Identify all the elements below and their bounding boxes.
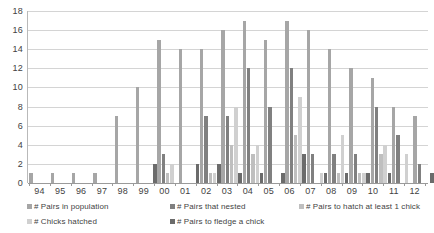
- year-group: [328, 11, 349, 183]
- bar: [251, 154, 254, 183]
- legend-swatch-icon: [27, 219, 32, 224]
- x-axis-tick-label: 02: [196, 183, 217, 199]
- bar: [430, 173, 433, 183]
- bar: [93, 173, 96, 183]
- legend-item[interactable]: # Chicks hatched: [27, 214, 97, 229]
- bar: [29, 173, 32, 183]
- legend-item[interactable]: # Pairs in population: [27, 199, 109, 214]
- x-axis-tickmark: [92, 183, 93, 186]
- legend-swatch-icon: [299, 204, 304, 209]
- bar: [362, 173, 365, 183]
- bar: [204, 116, 207, 183]
- year-group: [242, 11, 263, 183]
- x-axis-tick-label: 11: [383, 183, 404, 199]
- legend-label: # Pairs that nested: [177, 203, 246, 211]
- x-axis-tick-label: 04: [237, 183, 258, 199]
- x-axis-tickmark: [237, 183, 238, 186]
- y-axis-tick-label: 6: [18, 121, 23, 130]
- x-axis-tick-label: 96: [71, 183, 92, 199]
- x-axis-tick-label: 05: [258, 183, 279, 199]
- x-axis-tickmark: [175, 183, 176, 186]
- y-axis: 181614121086420: [0, 0, 26, 195]
- bar: [375, 107, 378, 183]
- bar: [221, 30, 224, 183]
- bar: [392, 107, 395, 183]
- year-group: [349, 11, 370, 183]
- y-axis-tick-label: 14: [13, 45, 23, 54]
- bar: [268, 107, 271, 183]
- x-axis-tickmark: [362, 183, 363, 186]
- bar: [230, 145, 233, 183]
- y-axis-tick-label: 16: [13, 26, 23, 35]
- x-axis-tickmark: [217, 183, 218, 186]
- bar: [209, 173, 212, 183]
- bar-chart: 181614121086420 949596979899000102030405…: [0, 0, 434, 233]
- legend-item[interactable]: # Pairs that nested: [170, 199, 246, 214]
- year-group: [264, 11, 285, 183]
- x-axis-tickmark: [279, 183, 280, 186]
- x-axis-tickmark: [154, 183, 155, 186]
- y-axis-tick-label: 0: [18, 179, 23, 188]
- bar: [371, 78, 374, 183]
- bar: [247, 68, 250, 183]
- year-group: [178, 11, 199, 183]
- bar: [136, 87, 139, 183]
- bar: [170, 164, 173, 183]
- bar: [200, 49, 203, 183]
- bar: [234, 107, 237, 183]
- year-group: [370, 11, 391, 183]
- year-group: [136, 11, 157, 183]
- year-group: [221, 11, 242, 183]
- x-axis-tick-label: 99: [133, 183, 154, 199]
- x-axis-tickmark: [404, 183, 405, 186]
- legend-item[interactable]: # Pairs to hatch at least 1 chick: [299, 199, 420, 214]
- bar: [51, 173, 54, 183]
- x-axis-tickmark: [425, 183, 426, 186]
- bar: [226, 116, 229, 183]
- year-group: [114, 11, 135, 183]
- plot-area: 181614121086420: [0, 0, 434, 195]
- bars-container: [27, 11, 427, 183]
- x-axis-tick-label: 95: [50, 183, 71, 199]
- legend-label: # Chicks hatched: [34, 218, 97, 226]
- bar: [162, 154, 165, 183]
- y-axis-tick-label: 10: [13, 83, 23, 92]
- x-axis-tick-label: 97: [92, 183, 113, 199]
- bar: [383, 145, 386, 183]
- year-group: [157, 11, 178, 183]
- bar: [328, 49, 331, 183]
- bar: [320, 173, 323, 183]
- year-group: [50, 11, 71, 183]
- x-axis-tick-label: 00: [154, 183, 175, 199]
- legend-label: # Pairs in population: [34, 203, 109, 211]
- year-group: [285, 11, 306, 183]
- bar: [341, 135, 344, 183]
- year-group: [93, 11, 114, 183]
- y-axis-tick-label: 12: [13, 64, 23, 73]
- legend-swatch-icon: [170, 219, 175, 224]
- bar: [354, 154, 357, 183]
- bar: [157, 40, 160, 183]
- y-axis-tick-label: 8: [18, 102, 23, 111]
- chart-legend: # Pairs in population# Pairs that nested…: [27, 199, 427, 231]
- year-group: [413, 11, 434, 183]
- bar: [290, 68, 293, 183]
- legend-swatch-icon: [170, 204, 175, 209]
- bar: [72, 173, 75, 183]
- legend-item[interactable]: # Pairs to fledge a chick: [170, 214, 264, 229]
- bar: [358, 173, 361, 183]
- x-axis-tickmark: [300, 183, 301, 186]
- x-axis-tick-label: 98: [112, 183, 133, 199]
- x-axis-tick-label: 08: [321, 183, 342, 199]
- legend-row-1: # Pairs in population# Pairs that nested…: [27, 199, 427, 214]
- year-group: [29, 11, 50, 183]
- legend-swatch-icon: [27, 204, 32, 209]
- year-group: [306, 11, 327, 183]
- bar: [179, 49, 182, 183]
- bar: [294, 135, 297, 183]
- bar: [396, 135, 399, 183]
- x-axis-tick-label: 03: [217, 183, 238, 199]
- x-axis-tickmark: [196, 183, 197, 186]
- bar: [307, 30, 310, 183]
- x-axis-tick-label: 01: [175, 183, 196, 199]
